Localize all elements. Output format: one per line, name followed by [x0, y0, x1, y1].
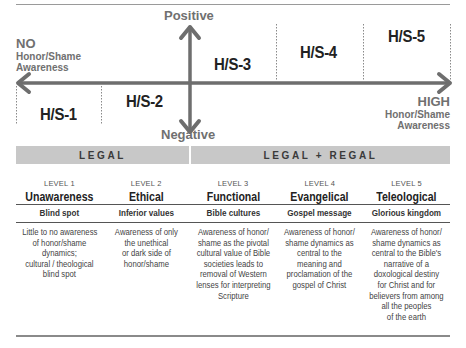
level-header-3: LEVEL 3 Functional [190, 168, 277, 205]
level-number: LEVEL 4 [276, 179, 363, 189]
level-number: LEVEL 2 [103, 179, 190, 189]
level-header-4: LEVEL 4 Evangelical [276, 168, 363, 205]
negative-label: Negative [161, 127, 215, 142]
positive-label: Positive [164, 8, 214, 23]
level-header-5: LEVEL 5 Teleological [363, 168, 450, 205]
horizontal-double-arrow-icon [18, 74, 450, 92]
level-headers: LEVEL 1 Unawareness LEVEL 2 Ethical LEVE… [16, 168, 450, 205]
high-awareness-sublabel: Honor/Shame Awareness [350, 109, 450, 131]
level-subtitles: Blind spot Inferior values Bible culture… [16, 208, 450, 218]
stage-label-hs3: H/S-3 [214, 55, 251, 75]
bottom-rule [16, 335, 450, 337]
level-description-4: Awareness of honor/ shame dynamics as ce… [276, 227, 363, 322]
level-header-1: LEVEL 1 Unawareness [16, 168, 103, 205]
legal-regal-band: LEGAL + REGAL [191, 146, 450, 164]
subtitle-divider [16, 222, 450, 223]
level-subtitle-3: Bible cultures [194, 208, 272, 218]
level-description-5: Awareness of honor/ shame dynamics as ce… [363, 227, 450, 322]
level-subtitle-4: Gospel message [281, 208, 359, 218]
level-descriptions: Little to no awareness of honor/shame dy… [16, 227, 450, 322]
vertical-double-arrow-icon [181, 27, 199, 132]
level-title: Ethical [108, 190, 184, 205]
level-header-2: LEVEL 2 Ethical [103, 168, 190, 205]
level-title: Teleological [368, 190, 444, 205]
level-number: LEVEL 1 [16, 179, 103, 189]
level-subtitle-2: Inferior values [107, 208, 185, 218]
header-divider [16, 204, 450, 205]
stage-label-hs5: H/S-5 [388, 27, 425, 47]
level-subtitle-1: Blind spot [20, 208, 98, 218]
high-awareness-label: HIGH [418, 94, 451, 109]
no-awareness-label: NO [16, 37, 36, 51]
stage-label-hs1: H/S-1 [40, 105, 77, 125]
level-description-1: Little to no awareness of honor/shame dy… [16, 227, 103, 322]
level-description-2: Awareness of only the unethical or dark … [103, 227, 190, 322]
legal-band: LEGAL [16, 146, 189, 164]
level-subtitle-5: Glorious kingdom [368, 208, 446, 218]
stage-label-hs2: H/S-2 [126, 92, 163, 112]
level-description-3: Awareness of honor/ shame as the pivotal… [190, 227, 277, 322]
no-awareness-sublabel: Honor/Shame Awareness [16, 51, 116, 73]
level-number: LEVEL 5 [363, 179, 450, 189]
stage-label-hs4: H/S-4 [300, 43, 337, 63]
honor-shame-axis-diagram: Positive Negative NO Honor/Shame Awarene… [0, 0, 466, 140]
level-number: LEVEL 3 [190, 179, 277, 189]
level-title: Functional [195, 190, 271, 205]
level-title: Unawareness [21, 190, 97, 205]
level-title: Evangelical [282, 190, 358, 205]
